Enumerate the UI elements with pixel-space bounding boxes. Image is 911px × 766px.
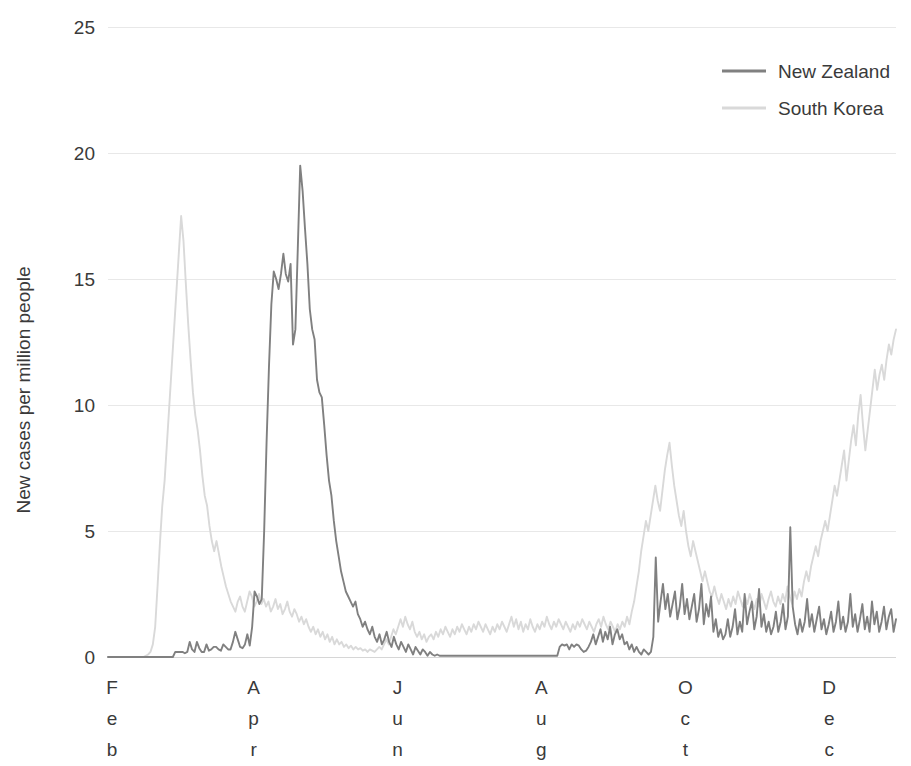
- chart-container: 0510152025 New cases per million people …: [0, 0, 911, 766]
- x-tick-oct: Oct: [678, 677, 693, 760]
- x-tick-letter: e: [824, 708, 835, 729]
- x-axis-tick-labels: FebAprJunAugOctDec: [106, 677, 836, 760]
- x-tick-letter: F: [106, 677, 118, 698]
- legend-label-south-korea: South Korea: [778, 98, 884, 119]
- y-tick-label: 15: [74, 269, 95, 290]
- y-gridlines: [108, 27, 896, 657]
- y-tick-label: 25: [74, 17, 95, 38]
- series-line-south-korea: [108, 216, 896, 657]
- x-tick-letter: b: [107, 739, 118, 760]
- series-line-new-zealand: [108, 166, 896, 657]
- x-tick-letter: D: [822, 677, 836, 698]
- legend-label-new-zealand: New Zealand: [778, 61, 890, 82]
- x-tick-letter: t: [683, 739, 689, 760]
- x-tick-feb: Feb: [106, 677, 118, 760]
- x-tick-letter: J: [393, 677, 403, 698]
- x-tick-aug: Aug: [535, 677, 548, 760]
- y-axis-title: New cases per million people: [13, 266, 34, 513]
- x-tick-letter: g: [536, 739, 547, 760]
- x-tick-letter: A: [535, 677, 548, 698]
- x-tick-letter: e: [107, 708, 118, 729]
- y-tick-label: 10: [74, 395, 95, 416]
- line-chart: 0510152025 New cases per million people …: [0, 0, 911, 766]
- x-tick-letter: p: [248, 708, 259, 729]
- x-tick-letter: c: [681, 708, 691, 729]
- y-tick-label: 0: [84, 647, 95, 668]
- x-tick-jun: Jun: [392, 677, 403, 760]
- x-tick-letter: u: [392, 708, 403, 729]
- y-tick-label: 5: [84, 521, 95, 542]
- legend: New ZealandSouth Korea: [722, 61, 890, 119]
- x-tick-letter: A: [247, 677, 260, 698]
- x-tick-letter: n: [392, 739, 403, 760]
- y-tick-label: 20: [74, 143, 95, 164]
- x-tick-letter: r: [250, 739, 257, 760]
- y-axis-tick-labels: 0510152025: [74, 17, 95, 668]
- x-tick-letter: u: [536, 708, 547, 729]
- x-tick-apr: Apr: [247, 677, 260, 760]
- x-tick-letter: c: [824, 739, 834, 760]
- x-tick-dec: Dec: [822, 677, 836, 760]
- x-tick-letter: O: [678, 677, 693, 698]
- data-series-group: [108, 166, 896, 657]
